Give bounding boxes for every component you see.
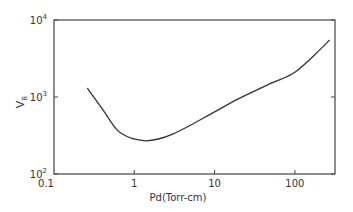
x-tick-label: 1	[131, 178, 137, 189]
y-tick-label: 103	[30, 90, 47, 103]
y-tick-label: 104	[30, 13, 48, 26]
x-axis-ticks: 0.1110100	[38, 170, 304, 189]
y-axis-ticks: 102103104	[30, 13, 335, 180]
y-axis-label: VB	[14, 96, 29, 109]
paschen-chart: 0.1110100 102103104 Pd(Torr-cm) VB	[0, 0, 353, 212]
x-tick-label: 100	[285, 178, 304, 189]
x-axis-label: Pd(Torr-cm)	[150, 192, 207, 203]
x-tick-label: 10	[208, 178, 221, 189]
plot-frame	[54, 20, 335, 174]
breakdown-voltage-curve	[87, 40, 329, 141]
